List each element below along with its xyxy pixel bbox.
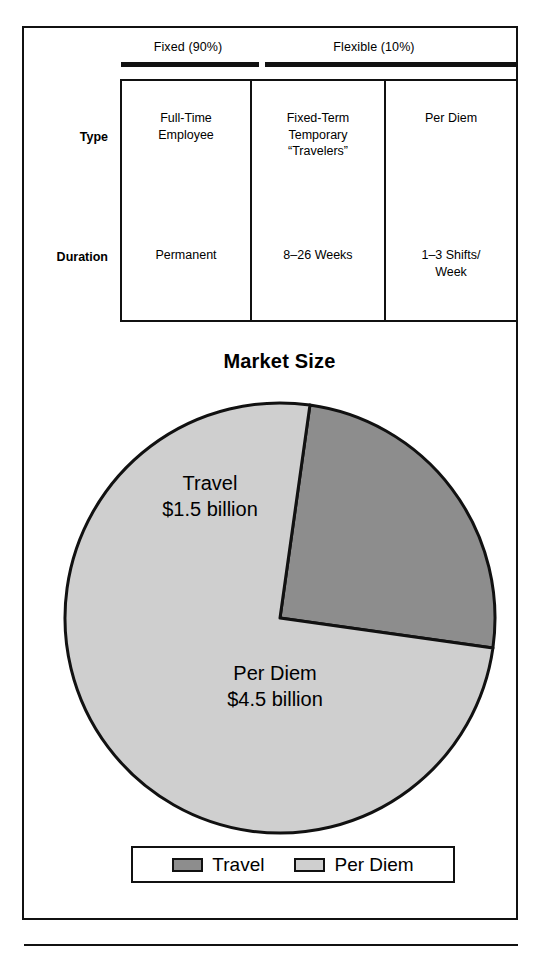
footer-rule xyxy=(24,944,518,946)
chart-legend: Travel Per Diem xyxy=(131,846,455,883)
pie-slice-travel xyxy=(280,405,495,648)
group-header-fixed-rule xyxy=(121,62,259,67)
legend-swatch-per-diem xyxy=(294,858,325,872)
group-header-flexible-rule xyxy=(265,62,518,67)
matrix-column-fixed-term: Fixed-Term Temporary “Travelers” 8–26 We… xyxy=(250,81,384,320)
matrix-cell-type-full-time: Full-Time Employee xyxy=(122,110,250,143)
market-size-pie-chart xyxy=(40,392,520,842)
pie-slice-label-travel: Travel $1.5 billion xyxy=(110,470,310,522)
group-header-fixed: Fixed (90%) xyxy=(113,40,263,54)
figure-container: Fixed (90%) Flexible (10%) Type Duration… xyxy=(0,0,559,958)
legend-label-travel: Travel xyxy=(212,855,264,874)
matrix-column-full-time: Full-Time Employee Permanent xyxy=(122,81,250,320)
legend-label-per-diem: Per Diem xyxy=(334,855,413,874)
legend-item-per-diem: Per Diem xyxy=(294,855,413,874)
matrix-cell-duration-per-diem: 1–3 Shifts/ Week xyxy=(386,247,516,280)
pie-slices xyxy=(65,403,495,833)
matrix-cell-type-fixed-term: Fixed-Term Temporary “Travelers” xyxy=(252,110,384,160)
chart-title: Market Size xyxy=(0,350,559,373)
group-header-flexible: Flexible (10%) xyxy=(258,40,490,54)
matrix-cell-duration-fixed-term: 8–26 Weeks xyxy=(252,247,384,264)
matrix-cell-duration-full-time: Permanent xyxy=(122,247,250,264)
legend-item-travel: Travel xyxy=(172,855,264,874)
employment-type-matrix: Full-Time Employee Permanent Fixed-Term … xyxy=(120,79,518,322)
matrix-row-label-duration: Duration xyxy=(16,250,108,264)
matrix-cell-type-per-diem: Per Diem xyxy=(386,110,516,127)
legend-swatch-travel xyxy=(172,858,203,872)
matrix-row-label-type: Type xyxy=(16,130,108,144)
matrix-column-per-diem: Per Diem 1–3 Shifts/ Week xyxy=(384,81,516,320)
pie-slice-label-per-diem: Per Diem $4.5 billion xyxy=(160,660,390,712)
